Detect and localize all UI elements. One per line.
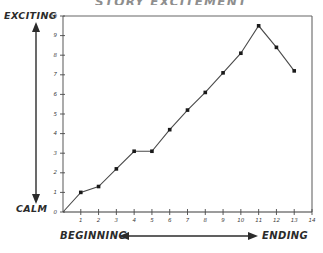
x-tick-label: 3 — [111, 217, 121, 223]
data-point — [186, 108, 190, 112]
data-point — [115, 167, 119, 171]
y-tick-label: 9 — [47, 32, 57, 38]
y-tick-label: 4 — [47, 130, 57, 136]
x-tick-label: 5 — [147, 217, 157, 223]
x-tick-label: 8 — [200, 217, 210, 223]
x-tick-label: 14 — [307, 217, 317, 223]
data-point — [97, 185, 101, 189]
y-tick-label: 3 — [47, 150, 57, 156]
horizontal-direction-arrow — [119, 232, 258, 240]
chart-canvas: STORY EXCITEMENT EXCITING CALM BEGINNING… — [0, 0, 323, 253]
data-point — [221, 71, 225, 75]
data-point — [257, 24, 261, 28]
data-line — [63, 26, 294, 212]
x-tick-label: 2 — [94, 217, 104, 223]
data-point — [132, 149, 136, 153]
data-point — [239, 51, 243, 55]
data-point — [150, 149, 154, 153]
data-point — [292, 69, 296, 73]
x-tick-label: 13 — [289, 217, 299, 223]
y-tick-label: 6 — [47, 91, 57, 97]
x-tick-label: 10 — [236, 217, 246, 223]
y-tick-label: 2 — [47, 169, 57, 175]
data-point — [168, 128, 172, 132]
data-markers — [79, 24, 296, 194]
x-tick-label: 9 — [218, 217, 228, 223]
x-tick-label: 12 — [271, 217, 281, 223]
x-tick-label: 11 — [254, 217, 264, 223]
data-point — [203, 91, 207, 95]
y-tick-label: 8 — [47, 52, 57, 58]
data-point — [79, 191, 83, 195]
y-tick-label: 10 — [47, 13, 57, 19]
y-tick-label: 1 — [47, 189, 57, 195]
x-tick-label: 7 — [183, 217, 193, 223]
vertical-direction-arrow — [32, 22, 40, 204]
y-tick-label: 5 — [47, 111, 57, 117]
x-tick-label: 1 — [76, 217, 86, 223]
x-tick-label: 4 — [129, 217, 139, 223]
y-tick-label: 0 — [47, 209, 57, 215]
x-tick-label: 6 — [165, 217, 175, 223]
y-tick-label: 7 — [47, 71, 57, 77]
data-point — [275, 46, 279, 50]
